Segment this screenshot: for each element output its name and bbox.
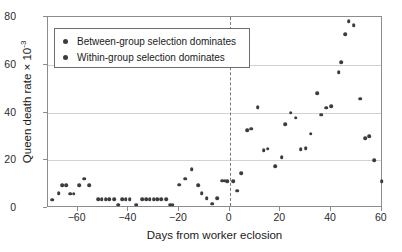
- data-point: [64, 183, 68, 187]
- data-point: [225, 179, 229, 183]
- x-tick-mark: [229, 207, 230, 211]
- x-tick-label: 40: [310, 211, 350, 223]
- data-point: [51, 198, 55, 202]
- x-tick-label: 0: [209, 211, 249, 223]
- data-point: [329, 104, 333, 108]
- legend-marker-icon: [63, 39, 68, 44]
- data-point: [159, 198, 163, 202]
- data-point: [165, 198, 169, 202]
- data-point: [274, 164, 278, 168]
- data-point: [177, 183, 181, 187]
- data-point: [319, 113, 323, 117]
- y-tick-label: 80: [0, 10, 16, 22]
- data-point: [116, 203, 120, 207]
- x-axis-label: Days from worker eclosion: [47, 229, 382, 241]
- data-point: [284, 123, 288, 127]
- data-point: [367, 135, 371, 139]
- data-point: [113, 198, 117, 202]
- data-point: [200, 191, 204, 195]
- data-point: [337, 70, 341, 74]
- data-point: [309, 132, 313, 136]
- legend-label: Between-group selection dominates: [77, 36, 236, 47]
- data-point: [315, 92, 319, 96]
- data-point: [235, 189, 239, 193]
- data-point: [77, 184, 81, 188]
- y-axis-label-text: Queen death rate × 10: [21, 48, 33, 163]
- x-tick-mark: [330, 207, 331, 211]
- x-tick-mark: [381, 207, 382, 211]
- y-tick-label: 0: [0, 201, 16, 213]
- y-tick-label: 40: [0, 106, 16, 118]
- data-point: [280, 155, 284, 159]
- data-point: [266, 147, 270, 151]
- data-point: [239, 172, 243, 176]
- data-point: [210, 202, 214, 206]
- y-tick-label: 60: [0, 58, 16, 70]
- data-point: [339, 61, 343, 65]
- x-tick-label: 20: [259, 211, 299, 223]
- data-point: [171, 203, 175, 207]
- legend-item-between-group: Between-group selection dominates: [63, 34, 249, 49]
- data-point: [128, 198, 132, 202]
- data-point: [249, 127, 253, 131]
- data-point: [184, 177, 188, 181]
- x-tick-label: 60: [361, 211, 401, 223]
- x-tick-label: −40: [107, 211, 147, 223]
- legend: Between-group selection dominates Within…: [54, 28, 250, 68]
- y-axis-label: Queen death rate × 10-3: [19, 2, 33, 202]
- data-point: [72, 192, 76, 196]
- data-point: [190, 167, 194, 171]
- data-point: [108, 198, 112, 202]
- x-tick-mark: [77, 207, 78, 211]
- data-point: [256, 105, 260, 109]
- y-tick-label: 20: [0, 153, 16, 165]
- data-point: [294, 116, 298, 120]
- data-point: [299, 147, 303, 151]
- data-point: [57, 191, 61, 195]
- data-point: [134, 203, 138, 207]
- data-point: [380, 179, 384, 183]
- data-point: [304, 147, 308, 151]
- gridline: [48, 113, 381, 114]
- scatter-plot-figure: Queen death rate × 10-3 020406080 −60−40…: [0, 0, 402, 252]
- data-point: [343, 32, 347, 36]
- data-point: [82, 177, 86, 181]
- y-tick-mark: [43, 207, 47, 208]
- data-point: [232, 179, 236, 183]
- x-tick-mark: [279, 207, 280, 211]
- data-point: [352, 24, 356, 28]
- x-tick-label: −60: [57, 211, 97, 223]
- legend-item-within-group: Within-group selection dominates: [63, 50, 249, 65]
- data-point: [372, 158, 376, 162]
- data-point: [324, 106, 328, 110]
- x-tick-mark: [127, 207, 128, 211]
- data-point: [87, 184, 91, 188]
- data-point: [205, 197, 209, 201]
- legend-label: Within-group selection dominates: [77, 52, 225, 63]
- legend-marker-icon: [63, 55, 68, 60]
- data-point: [196, 183, 200, 187]
- data-point: [289, 111, 293, 115]
- y-axis-label-exponent: -3: [19, 41, 28, 48]
- data-point: [215, 197, 219, 201]
- x-tick-mark: [178, 207, 179, 211]
- gridline: [48, 160, 381, 161]
- data-point: [358, 97, 362, 101]
- data-point: [347, 20, 351, 24]
- x-tick-label: −20: [158, 211, 198, 223]
